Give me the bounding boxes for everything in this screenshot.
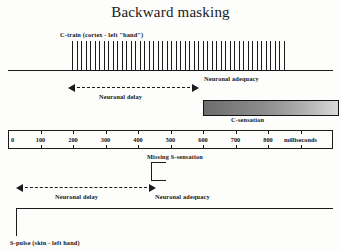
pulse-bar (131, 41, 132, 70)
arrow-shaft (72, 87, 195, 88)
axis-unit-label: milliseconds (284, 136, 317, 143)
pulse-bar (189, 41, 190, 70)
pulse-bar (198, 41, 199, 70)
pulse-bar (86, 41, 87, 70)
pulse-bar (207, 41, 208, 70)
axis-tick (8, 130, 9, 134)
pulse-bar (230, 41, 231, 70)
axis-tick-label: 300 (101, 136, 110, 143)
axis-tick (106, 145, 107, 149)
axis-tick (268, 145, 269, 149)
pulse-bar (252, 41, 253, 70)
s-pulse-label: S-pulse (skin - left hand) (10, 239, 80, 246)
time-axis: 0100200300400500600700800milliseconds (8, 130, 333, 149)
pulse-bar (216, 41, 217, 70)
axis-tick (203, 130, 204, 134)
axis-tick-label: 700 (231, 136, 240, 143)
pulse-bar (72, 41, 73, 70)
neuronal-delay-top-arrow (68, 83, 199, 92)
neuronal-delay-bottom-label: Neuronal delay (55, 193, 98, 200)
axis-tick-label: 800 (263, 136, 272, 143)
pulse-bar (180, 41, 181, 70)
pulse-bar (90, 41, 91, 70)
pulse-bar (248, 41, 249, 70)
c-sensation-label: C-sensation (231, 116, 264, 123)
axis-tick (41, 145, 42, 149)
pulse-bar (113, 41, 114, 70)
axis-tick (203, 145, 204, 149)
axis-tick (301, 130, 302, 134)
pulse-bar (77, 41, 78, 70)
pulse-bar (104, 41, 105, 70)
page-title: Backward masking (0, 4, 341, 21)
c-train-baseline (8, 70, 333, 71)
pulse-bar (270, 41, 271, 70)
pulse-bar (185, 41, 186, 70)
pulse-bar (108, 41, 109, 70)
axis-tick (268, 130, 269, 134)
missing-s-sensation-label: Missing S-sensation (147, 153, 203, 160)
pulse-bar (194, 41, 195, 70)
pulse-bar (99, 41, 100, 70)
s-pulse-step (16, 208, 333, 236)
axis-tick (73, 145, 74, 149)
pulse-bar (158, 41, 159, 70)
arrow-shaft (20, 187, 152, 188)
axis-tick-label: 0 (11, 136, 14, 143)
pulse-bar (257, 41, 258, 70)
pulse-bar (234, 41, 235, 70)
axis-tick (171, 145, 172, 149)
axis-tick (138, 130, 139, 134)
axis-tick (332, 145, 333, 149)
pulse-bar (144, 41, 145, 70)
pulse-bar (221, 41, 222, 70)
axis-tick-label: 400 (133, 136, 142, 143)
pulse-bar (279, 41, 280, 70)
pulse-bar (122, 41, 123, 70)
neuronal-adequacy-bottom-label: Neuronal adequacy (155, 193, 210, 200)
axis-tick-label: 100 (36, 136, 45, 143)
pulse-bar (140, 41, 141, 70)
axis-tick (236, 130, 237, 134)
axis-tick (8, 145, 9, 149)
pulse-bar (167, 41, 168, 70)
c-train-pulses (72, 41, 285, 70)
pulse-bar (176, 41, 177, 70)
axis-tick (106, 130, 107, 134)
pulse-bar (81, 41, 82, 70)
axis-tick-label: 200 (68, 136, 77, 143)
c-sensation-bar (203, 100, 339, 116)
pulse-bar (225, 41, 226, 70)
axis-tick-label: 600 (198, 136, 207, 143)
neuronal-adequacy-top-label: Neuronal adequacy (204, 75, 259, 82)
pulse-bar (149, 41, 150, 70)
pulse-bar (266, 41, 267, 70)
pulse-bar (284, 41, 285, 70)
pulse-bar (126, 41, 127, 70)
arrowhead-right-icon (149, 184, 156, 192)
pulse-bar (275, 41, 276, 70)
c-train-label: C-train (cortex - left "hand") (60, 31, 143, 38)
pulse-bar (261, 41, 262, 70)
axis-tick (236, 145, 237, 149)
pulse-bar (135, 41, 136, 70)
pulse-bar (95, 41, 96, 70)
pulse-bar (243, 41, 244, 70)
pulse-bar (153, 41, 154, 70)
pulse-bar (203, 41, 204, 70)
axis-tick-label: 500 (166, 136, 175, 143)
axis-tick (171, 130, 172, 134)
axis-tick (332, 130, 333, 134)
pulse-bar (239, 41, 240, 70)
neuronal-delay-top-label: Neuronal delay (99, 93, 142, 100)
axis-tick (301, 145, 302, 149)
pulse-bar (171, 41, 172, 70)
backward-masking-figure: Backward masking C-train (cortex - left … (0, 0, 341, 251)
axis-tick (73, 130, 74, 134)
pulse-bar (117, 41, 118, 70)
pulse-bar (212, 41, 213, 70)
s-pulse-onset-edge (16, 208, 17, 236)
arrowhead-right-icon (192, 84, 199, 92)
neuronal-delay-bottom-arrow (16, 183, 156, 192)
pulse-bar (162, 41, 163, 70)
